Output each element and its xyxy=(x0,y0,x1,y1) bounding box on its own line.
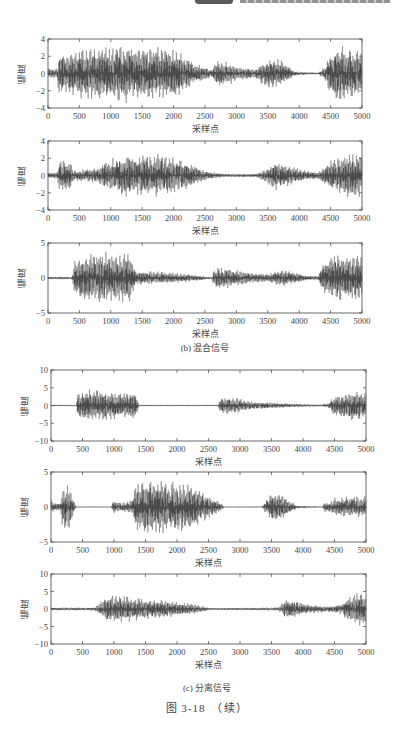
x-tick-label: 1500 xyxy=(134,213,151,223)
x-tick-label: 1000 xyxy=(102,213,119,223)
x-tick-label: 500 xyxy=(73,111,86,121)
y-tick-label: −5 xyxy=(39,418,48,428)
figure-title: 图 3-18 （续） xyxy=(107,699,307,715)
y-axis-label: 幅度 xyxy=(14,268,27,288)
x-tick-label: 0 xyxy=(49,444,53,454)
y-tick-label: 10 xyxy=(40,569,49,579)
y-tick-label: 0 xyxy=(41,273,45,283)
y-tick-label: −2 xyxy=(36,86,45,96)
x-tick-label: 2000 xyxy=(165,213,182,223)
x-tick-label: 1000 xyxy=(102,111,119,121)
x-tick-label: 4000 xyxy=(291,111,308,121)
x-tick-label: 0 xyxy=(49,647,53,657)
y-tick-label: 5 xyxy=(41,238,45,248)
x-tick-label: 2500 xyxy=(200,444,217,454)
x-tick-label: 2500 xyxy=(197,213,214,223)
signal-plot-1: 0500100015002000250030003500400045005000… xyxy=(48,39,362,108)
x-tick-label: 1500 xyxy=(134,316,151,326)
y-tick-label: 4 xyxy=(41,34,46,44)
waveform xyxy=(48,46,362,103)
x-tick-label: 4500 xyxy=(326,545,343,555)
x-tick-label: 3000 xyxy=(228,316,245,326)
header-running-title xyxy=(240,0,390,3)
x-axis-label: 采样点 xyxy=(169,658,249,671)
waveform xyxy=(48,154,362,197)
signal-plot-6: 0500100015002000250030003500400045005000… xyxy=(51,574,366,644)
y-tick-label: 2 xyxy=(41,153,45,163)
x-tick-label: 3000 xyxy=(232,444,249,454)
y-axis-label: 幅度 xyxy=(17,497,30,517)
x-tick-label: 4500 xyxy=(326,444,343,454)
y-tick-label: 10 xyxy=(40,365,49,375)
caption-mixed-signals: (b) 混合信号 xyxy=(105,341,305,354)
x-tick-label: 2500 xyxy=(197,316,214,326)
y-tick-label: 0 xyxy=(44,502,48,512)
x-tick-label: 3500 xyxy=(263,545,280,555)
y-tick-label: −5 xyxy=(36,308,45,318)
x-tick-label: 5000 xyxy=(354,111,371,121)
y-tick-label: 0 xyxy=(41,69,45,79)
x-tick-label: 500 xyxy=(76,545,89,555)
x-tick-label: 3500 xyxy=(263,444,280,454)
x-tick-label: 4000 xyxy=(295,545,312,555)
x-tick-label: 3000 xyxy=(228,213,245,223)
x-tick-label: 5000 xyxy=(358,647,375,657)
signal-plot-5: 0500100015002000250030003500400045005000… xyxy=(51,472,366,542)
x-tick-label: 0 xyxy=(46,213,50,223)
x-tick-label: 1500 xyxy=(137,647,154,657)
x-tick-label: 4000 xyxy=(295,444,312,454)
y-tick-label: 0 xyxy=(44,604,48,614)
y-tick-label: −10 xyxy=(35,639,48,649)
x-tick-label: 500 xyxy=(76,647,89,657)
waveform xyxy=(51,481,366,533)
header-badge xyxy=(195,0,233,4)
x-tick-label: 5000 xyxy=(354,213,371,223)
x-tick-label: 3500 xyxy=(259,111,276,121)
x-tick-label: 0 xyxy=(46,316,50,326)
x-tick-label: 1000 xyxy=(106,545,123,555)
x-tick-label: 4000 xyxy=(291,213,308,223)
x-tick-label: 2000 xyxy=(165,316,182,326)
waveform xyxy=(48,252,362,302)
waveform xyxy=(51,593,366,625)
x-tick-label: 3500 xyxy=(259,213,276,223)
x-tick-label: 4500 xyxy=(322,111,339,121)
x-tick-label: 0 xyxy=(46,111,50,121)
y-tick-label: 4 xyxy=(41,136,46,146)
x-tick-label: 1000 xyxy=(106,647,123,657)
y-axis-label: 幅度 xyxy=(17,396,30,416)
caption-separated-signals: (c) 分离信号 xyxy=(107,681,307,694)
x-tick-label: 4000 xyxy=(295,647,312,657)
y-tick-label: −10 xyxy=(35,436,48,446)
y-tick-label: 5 xyxy=(44,383,48,393)
x-tick-label: 4500 xyxy=(322,213,339,223)
x-axis-label: 采样点 xyxy=(165,224,245,237)
x-tick-label: 3500 xyxy=(259,316,276,326)
x-tick-label: 4000 xyxy=(291,316,308,326)
y-axis-label: 幅度 xyxy=(14,166,27,186)
y-tick-label: −4 xyxy=(36,103,46,113)
x-tick-label: 5000 xyxy=(354,316,371,326)
x-tick-label: 2000 xyxy=(165,111,182,121)
y-tick-label: −5 xyxy=(39,622,48,632)
x-tick-label: 2500 xyxy=(200,545,217,555)
x-tick-label: 2500 xyxy=(197,111,214,121)
x-tick-label: 2000 xyxy=(169,444,186,454)
y-tick-label: 0 xyxy=(41,171,45,181)
x-tick-label: 0 xyxy=(49,545,53,555)
x-axis-label: 采样点 xyxy=(169,455,249,468)
y-tick-label: 5 xyxy=(44,467,48,477)
x-axis-label: 采样点 xyxy=(169,556,249,569)
x-tick-label: 1500 xyxy=(134,111,151,121)
x-tick-label: 3000 xyxy=(232,545,249,555)
signal-plot-3: 0500100015002000250030003500400045005000… xyxy=(48,243,362,313)
signal-plot-2: 0500100015002000250030003500400045005000… xyxy=(48,141,362,210)
y-tick-label: 0 xyxy=(44,401,48,411)
signal-plot-4: 0500100015002000250030003500400045005000… xyxy=(51,370,366,441)
x-tick-label: 500 xyxy=(76,444,89,454)
x-tick-label: 500 xyxy=(73,213,86,223)
x-tick-label: 3000 xyxy=(232,647,249,657)
x-tick-label: 2500 xyxy=(200,647,217,657)
x-axis-label: 采样点 xyxy=(165,122,245,135)
y-axis-label: 幅度 xyxy=(14,64,27,84)
